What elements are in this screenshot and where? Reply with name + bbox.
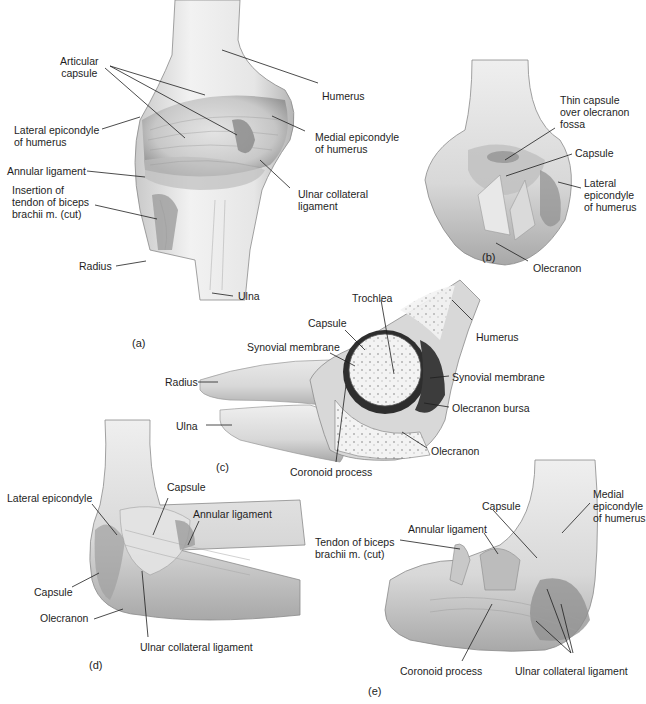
label-biceps-insertion: Insertion of tendon of biceps brachii m.…: [12, 184, 89, 220]
label-coronoid-process-e: Coronoid process: [400, 665, 482, 677]
label-olecranon-c: Olecranon: [431, 445, 479, 457]
label-thin-capsule: Thin capsule over olecranon fossa: [560, 94, 629, 130]
label-humerus-a: Humerus: [322, 90, 365, 102]
label-capsule-d-top: Capsule: [167, 481, 206, 493]
label-annular-ligament-a: Annular ligament: [7, 165, 86, 177]
label-capsule-e: Capsule: [482, 500, 521, 512]
panel-tag-b: (b): [482, 251, 495, 263]
label-trochlea: Trochlea: [352, 292, 392, 304]
panel-tag-a: (a): [132, 337, 145, 349]
label-lateral-epicondyle-d: Lateral epicondyle: [7, 492, 92, 504]
panel-c-artwork: [200, 280, 480, 462]
panel-a-artwork: [135, 0, 294, 300]
label-biceps-tendon-cut: Tendon of biceps brachii m. (cut): [315, 536, 394, 560]
label-radius-c: Radius: [165, 376, 198, 388]
label-ulnar-collateral-ligament-a: Ulnar collateral ligament: [298, 188, 368, 212]
label-articular-capsule: Articular capsule: [60, 55, 99, 79]
panel-tag-e: (e): [368, 685, 381, 697]
label-synovial-membrane-right: Synovial membrane: [452, 371, 545, 383]
label-ulnar-collateral-ligament-d: Ulnar collateral ligament: [140, 641, 253, 653]
label-ulnar-collateral-ligament-e: Ulnar collateral ligament: [515, 665, 628, 677]
panel-tag-d: (d): [89, 659, 102, 671]
label-medial-epicondyle-e: Medial epicondyle of humerus: [593, 488, 646, 524]
label-ulna-a: Ulna: [238, 290, 260, 302]
label-annular-ligament-e: Annular ligament: [408, 523, 487, 535]
label-olecranon-d: Olecranon: [40, 612, 88, 624]
label-olecranon-b: Olecranon: [533, 262, 581, 274]
label-coronoid-process-c: Coronoid process: [290, 466, 372, 478]
panel-b-artwork: [425, 60, 571, 265]
label-medial-epicondyle-a: Medial epicondyle of humerus: [315, 131, 399, 155]
label-lateral-epicondyle-b: Lateral epicondyle of humerus: [584, 177, 637, 213]
label-lateral-epicondyle-a: Lateral epicondyle of humerus: [14, 124, 99, 148]
label-humerus-c: Humerus: [476, 331, 519, 343]
elbow-joint-figure: Articular capsule Humerus Lateral epicon…: [0, 0, 646, 704]
label-capsule-d-side: Capsule: [34, 586, 73, 598]
label-ulna-c: Ulna: [176, 420, 198, 432]
panel-d-artwork: [90, 420, 305, 620]
label-radius-a: Radius: [79, 260, 112, 272]
label-annular-ligament-d: Annular ligament: [193, 508, 272, 520]
panel-tag-c: (c): [216, 461, 229, 473]
label-olecranon-bursa: Olecranon bursa: [452, 402, 530, 414]
label-capsule-c: Capsule: [308, 317, 347, 329]
label-synovial-membrane-left: Synovial membrane: [247, 341, 340, 353]
label-capsule-b: Capsule: [575, 147, 614, 159]
